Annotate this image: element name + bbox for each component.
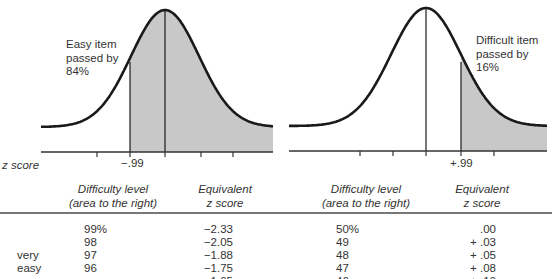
right-cutoff-label: +.99 xyxy=(450,157,473,171)
table-cell-difficulty: 48 xyxy=(336,249,349,263)
header-line: z score xyxy=(185,197,265,211)
table-cell-difficulty: 98 xyxy=(84,236,97,250)
table-header-rule xyxy=(0,212,552,214)
table-cell-difficulty: 97 xyxy=(84,249,97,263)
table-cell-z: + .05 xyxy=(440,249,496,263)
table-cell-difficulty-cut: 46 xyxy=(336,275,349,279)
annotation-line: 16% xyxy=(476,61,538,75)
header-line: Equivalent xyxy=(185,183,265,197)
table-cell-difficulty: 96 xyxy=(84,262,97,276)
header-line: Difficulty level xyxy=(301,183,431,197)
annotation-line: 84% xyxy=(66,65,118,79)
right-normal-curve xyxy=(289,8,547,156)
right-curve-annotation: Difficult item passed by 16% xyxy=(476,34,538,75)
right-axis-ticks xyxy=(360,151,494,156)
header-left-z: Equivalent z score xyxy=(185,183,265,210)
annotation-line: Easy item xyxy=(66,38,118,52)
header-line: (area to the right) xyxy=(48,197,178,211)
table-cell-z: + .08 xyxy=(440,262,496,276)
annotation-line: passed by xyxy=(66,52,118,66)
left-shaded-area xyxy=(130,10,273,152)
table-cell-z: .00 xyxy=(440,223,496,237)
table-cell-difficulty: 99% xyxy=(84,223,107,237)
z-score-axis-label: z score xyxy=(2,159,39,173)
left-normal-curve xyxy=(41,10,273,157)
header-right-z: Equivalent z score xyxy=(442,183,522,210)
annotation-line: Difficult item xyxy=(476,34,538,48)
header-left-difficulty: Difficulty level (area to the right) xyxy=(48,183,178,210)
table-cell-z-cut: −1.65 xyxy=(180,275,233,279)
table-cell-z: −2.05 xyxy=(180,236,233,250)
table-cell-difficulty: 47 xyxy=(336,262,349,276)
left-cutoff-label: −.99 xyxy=(121,157,144,171)
left-curve-annotation: Easy item passed by 84% xyxy=(66,38,118,79)
table-cell-difficulty: 50% xyxy=(336,223,359,237)
annotation-line: passed by xyxy=(476,48,538,62)
header-line: Equivalent xyxy=(442,183,522,197)
table-cell-difficulty: 49 xyxy=(336,236,349,250)
header-line: (area to the right) xyxy=(301,197,431,211)
table-cell-z-cut: + .10 xyxy=(440,275,496,279)
header-line: z score xyxy=(442,197,522,211)
header-line: Difficulty level xyxy=(48,183,178,197)
table-cell-z: −1.75 xyxy=(180,262,233,276)
row-group-label-easy: easy xyxy=(17,262,41,276)
row-group-label-very: very xyxy=(17,249,39,263)
header-right-difficulty: Difficulty level (area to the right) xyxy=(301,183,431,210)
table-cell-z: + .03 xyxy=(440,236,496,250)
table-cell-z: −1.88 xyxy=(180,249,233,263)
table-cell-z: −2.33 xyxy=(180,223,233,237)
left-axis-ticks xyxy=(97,152,233,157)
